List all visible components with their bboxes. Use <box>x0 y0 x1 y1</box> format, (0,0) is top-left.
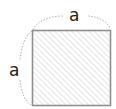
left-side-label: a <box>9 60 19 80</box>
square-diagram: a a <box>0 0 116 109</box>
top-side-label: a <box>69 5 79 25</box>
square <box>33 31 111 106</box>
left-dimension-arc <box>20 31 32 105</box>
